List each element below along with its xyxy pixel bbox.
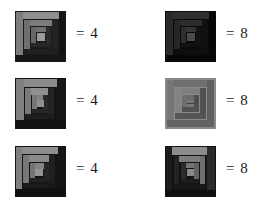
block-center (35, 169, 43, 176)
block-ring2-bottom (23, 183, 55, 188)
block-ring2-bottom (174, 49, 208, 54)
quilt-block-row1-left (15, 11, 66, 62)
block-ring3-bottom (182, 107, 199, 112)
block-ring-top-light (166, 147, 211, 155)
block-ring-left-light (16, 147, 22, 191)
equation-row1-left: = 4 (76, 26, 99, 41)
block-ring-right-dark (207, 147, 215, 195)
block-ring2-bottom (25, 114, 54, 119)
block-center-divider (187, 103, 194, 104)
block-ring3-left (181, 27, 186, 44)
block-ring-bottom-dark (166, 190, 215, 196)
block-center (187, 33, 195, 41)
block-ring-bottom-dark (167, 120, 214, 127)
block-ring2-left (23, 155, 29, 185)
block-ring3-bottom (31, 43, 51, 47)
block-ring-left-light (16, 79, 24, 121)
quilt-block-row3-right (165, 146, 216, 197)
block-ring2-bottom (175, 113, 206, 119)
block-ring3-left (31, 27, 36, 44)
block-center (37, 33, 45, 41)
block-ring-right-dark (209, 12, 215, 61)
block-ring2-left (174, 20, 180, 50)
block-ring2-bottom (24, 49, 58, 54)
block-ring-bottom-dark (16, 55, 65, 61)
block-ring2-left (24, 20, 30, 50)
block-ring2-bottom (174, 184, 205, 189)
block-ring-bottom-dark (16, 189, 65, 196)
equation-row2-right: = 8 (226, 93, 249, 108)
block-ring3-bottom (32, 109, 48, 113)
block-ring-left-light (16, 12, 23, 57)
quilt-block-row1-right (165, 11, 216, 62)
equation-row2-left: = 4 (76, 93, 99, 108)
block-ring-bottom-dark (16, 120, 65, 128)
block-ring2-left (25, 88, 31, 116)
equation-row1-right: = 8 (226, 26, 249, 41)
block-ring-bottom-dark (166, 55, 215, 61)
block-ring-top-light (16, 147, 59, 154)
block-center (37, 100, 44, 107)
quilt-block-row2-left (15, 78, 66, 129)
equation-row3-left: = 4 (76, 161, 99, 176)
block-ring3-bottom (181, 179, 199, 183)
quilt-block-row3-left (15, 146, 66, 197)
block-center (187, 169, 194, 176)
block-ring3-bottom (30, 178, 49, 182)
block-ring-right-dark (59, 12, 65, 61)
block-ring-right-dark (58, 147, 65, 195)
equation-row3-right: = 8 (226, 161, 249, 176)
quilt-block-row2-right (165, 78, 216, 129)
quilt-block-grid: = 4 = 8 = 4 (0, 0, 271, 197)
block-ring-left-light (166, 147, 172, 193)
block-ring3-bottom (181, 43, 201, 47)
block-ring-left-light (166, 12, 173, 57)
